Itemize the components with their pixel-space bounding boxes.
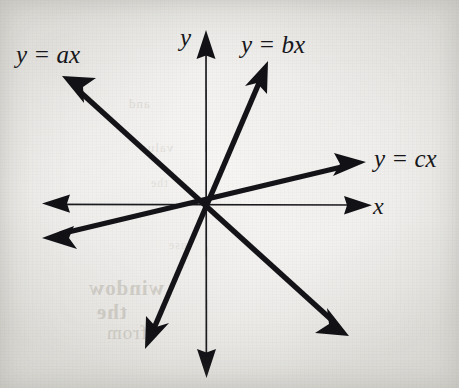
x-axis-arrow-right-icon [344,196,372,215]
line-cx-arrow-lower-left-icon [42,226,77,249]
y-axis-arrow-up-icon [197,30,216,59]
figure-canvas: window the from and value the use [0,0,459,388]
line-cx-arrow-upper-right-icon [333,153,366,176]
y-axis-label: y [180,24,191,52]
line-cx-group [42,153,366,249]
y-axis-arrow-down-icon [197,349,216,378]
line-label-bx: y = bx [241,31,305,59]
line-label-cx: y = cx [374,145,437,173]
line-label-ax: y = ax [16,41,80,69]
x-axis-label: x [373,193,384,220]
line-cx-stroke [60,165,350,234]
x-axis-arrow-left-icon [42,195,70,213]
